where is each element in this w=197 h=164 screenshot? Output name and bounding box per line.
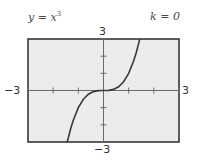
y-min-label: −3	[94, 143, 110, 156]
x-max-label: 3	[182, 84, 189, 97]
x-min-label: −3	[4, 84, 20, 97]
y-max-label: 3	[99, 25, 106, 38]
